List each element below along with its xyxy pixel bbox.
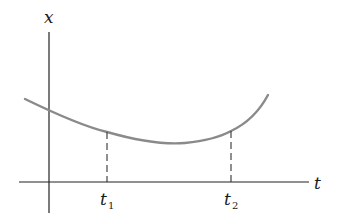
- t1-subscript: 1: [108, 200, 114, 211]
- x-axis-label: t: [314, 173, 321, 193]
- t2-label: t: [224, 189, 231, 209]
- y-axis-label: x: [44, 7, 54, 27]
- graph-canvas: x t t 1 t 2: [0, 0, 342, 217]
- t2-subscript: 2: [232, 200, 238, 211]
- position-time-graph: x t t 1 t 2: [0, 0, 342, 217]
- t1-label: t: [100, 189, 107, 209]
